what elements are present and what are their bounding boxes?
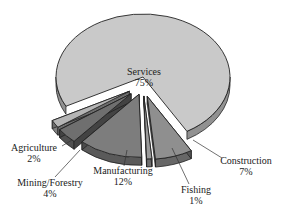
- label-agriculture-name: Agriculture: [6, 142, 62, 153]
- label-mining-forestry: Mining/Forestry 4%: [12, 177, 88, 199]
- label-fishing-name: Fishing: [176, 184, 216, 195]
- label-services: Services 75%: [124, 66, 164, 88]
- label-services-pct: 75%: [124, 77, 164, 88]
- label-construction-name: Construction: [215, 155, 277, 166]
- label-manufacturing: Manufacturing 12%: [88, 165, 158, 187]
- label-fishing: Fishing 1%: [176, 184, 216, 206]
- label-construction-pct: 7%: [215, 166, 277, 177]
- label-mining-forestry-name: Mining/Forestry: [12, 177, 88, 188]
- label-construction: Construction 7%: [215, 155, 277, 177]
- label-mining-forestry-pct: 4%: [12, 188, 88, 199]
- label-manufacturing-pct: 12%: [88, 176, 158, 187]
- label-agriculture: Agriculture 2%: [6, 142, 62, 164]
- label-fishing-pct: 1%: [176, 195, 216, 206]
- label-agriculture-pct: 2%: [6, 153, 62, 164]
- label-services-name: Services: [124, 66, 164, 77]
- label-manufacturing-name: Manufacturing: [88, 165, 158, 176]
